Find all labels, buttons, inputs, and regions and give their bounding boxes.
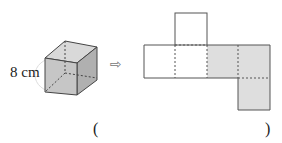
answer-close-paren: ) bbox=[265, 120, 270, 138]
cube-figure bbox=[35, 41, 97, 95]
arrow-icon: ⇨ bbox=[110, 56, 122, 72]
edge-length-label: 8 cm bbox=[10, 64, 40, 81]
cube-net bbox=[144, 13, 270, 110]
answer-blank[interactable] bbox=[105, 120, 260, 138]
answer-open-paren: ( bbox=[93, 120, 98, 138]
